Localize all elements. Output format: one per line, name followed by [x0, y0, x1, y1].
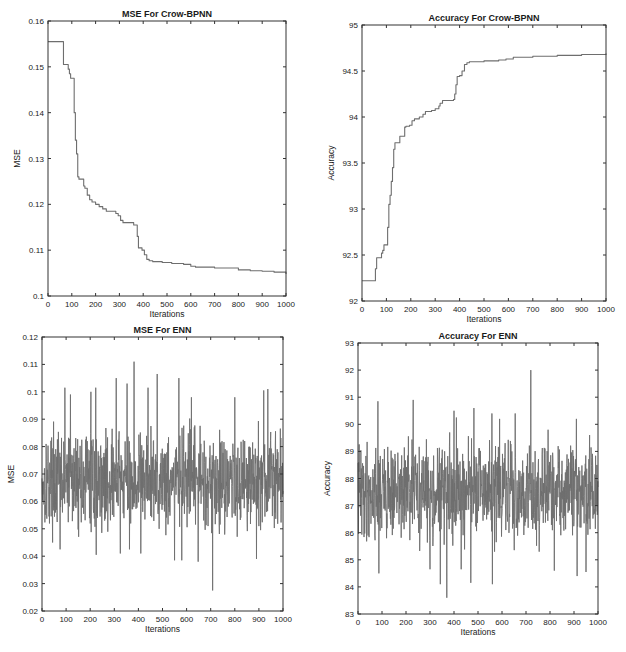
y-tick-label: 93	[345, 339, 354, 348]
x-tick-label: 100	[380, 305, 394, 314]
x-tick-label: 0	[40, 615, 45, 624]
y-tick-label: 0.11	[29, 246, 45, 255]
y-tick-label: 94.5	[342, 67, 358, 76]
figure-canvas: 010020030040050060070080090010000.10.110…	[0, 0, 626, 652]
y-tick-label: 94	[349, 113, 358, 122]
x-tick-label: 900	[256, 300, 270, 309]
y-tick-label: 0.15	[28, 63, 44, 72]
data-line	[42, 362, 283, 591]
y-tick-label: 0.05	[22, 525, 38, 534]
chart-title: MSE For ENN	[133, 325, 191, 335]
y-tick-label: 92.5	[342, 251, 358, 260]
x-tick-label: 0	[356, 618, 361, 627]
y-tick-label: 90	[345, 420, 354, 429]
y-tick-label: 88	[345, 475, 354, 484]
chart-mse-enn: 010020030040050060070080090010000.020.03…	[6, 325, 292, 634]
y-tick-label: 0.06	[22, 497, 38, 506]
y-axis-label: MSE	[12, 149, 22, 168]
figure: 010020030040050060070080090010000.10.110…	[0, 0, 626, 652]
x-tick-label: 700	[208, 300, 222, 309]
x-tick-label: 900	[567, 618, 581, 627]
y-axis-label: Accuracy	[322, 460, 332, 496]
x-tick-label: 200	[84, 615, 98, 624]
x-tick-label: 0	[46, 300, 51, 309]
axes-box	[48, 21, 286, 296]
chart-accuracy-crow-bpnn: 010020030040050060070080090010009292.593…	[326, 13, 615, 324]
x-axis-label: Iterations	[150, 309, 185, 319]
y-axis-label: Accuracy	[326, 145, 336, 181]
x-tick-label: 500	[477, 305, 491, 314]
x-tick-label: 200	[404, 305, 418, 314]
data-line	[48, 42, 286, 274]
x-tick-label: 1000	[277, 300, 295, 309]
x-tick-label: 700	[204, 615, 218, 624]
x-tick-label: 600	[184, 300, 198, 309]
y-tick-label: 83	[345, 610, 354, 619]
y-tick-label: 91	[345, 393, 354, 402]
y-tick-label: 0.09	[22, 415, 38, 424]
y-tick-label: 0.12	[22, 333, 38, 342]
y-tick-label: 93	[349, 205, 358, 214]
y-tick-label: 87	[345, 502, 354, 511]
x-tick-label: 1000	[597, 305, 615, 314]
x-tick-label: 100	[65, 300, 79, 309]
x-tick-label: 0	[360, 305, 365, 314]
x-tick-label: 500	[156, 615, 170, 624]
x-tick-label: 1000	[274, 615, 292, 624]
x-tick-label: 500	[160, 300, 174, 309]
x-axis-label: Iterations	[145, 624, 180, 634]
x-tick-label: 400	[137, 300, 151, 309]
x-tick-label: 400	[453, 305, 467, 314]
x-tick-label: 700	[519, 618, 533, 627]
x-tick-label: 700	[526, 305, 540, 314]
chart-accuracy-enn: 0100200300400500600700800900100083848586…	[322, 331, 607, 637]
x-tick-label: 800	[551, 305, 565, 314]
x-tick-label: 200	[89, 300, 103, 309]
axes-box	[362, 25, 606, 301]
y-tick-label: 0.1	[33, 292, 45, 301]
x-tick-label: 600	[180, 615, 194, 624]
x-tick-label: 400	[132, 615, 146, 624]
y-tick-label: 0.1	[27, 388, 39, 397]
y-tick-label: 95	[349, 21, 358, 30]
x-tick-label: 300	[108, 615, 122, 624]
y-tick-label: 89	[345, 447, 354, 456]
y-tick-label: 0.03	[22, 580, 38, 589]
y-tick-label: 93.5	[342, 159, 358, 168]
chart-title: Accuracy For ENN	[438, 331, 517, 341]
x-tick-label: 800	[228, 615, 242, 624]
y-tick-label: 0.07	[22, 470, 38, 479]
data-line	[362, 54, 606, 281]
y-tick-label: 0.02	[22, 607, 38, 616]
x-tick-label: 800	[232, 300, 246, 309]
y-tick-label: 0.14	[28, 109, 44, 118]
y-tick-label: 92	[349, 297, 358, 306]
x-tick-label: 400	[447, 618, 461, 627]
y-tick-label: 0.11	[23, 360, 39, 369]
y-tick-label: 0.13	[28, 155, 44, 164]
x-tick-label: 600	[502, 305, 516, 314]
x-tick-label: 800	[543, 618, 557, 627]
x-tick-label: 900	[575, 305, 589, 314]
x-axis-label: Iterations	[467, 314, 502, 324]
y-tick-label: 0.04	[22, 552, 38, 561]
x-axis-label: Iterations	[461, 627, 496, 637]
y-tick-label: 86	[345, 529, 354, 538]
data-line	[358, 370, 598, 598]
x-tick-label: 100	[59, 615, 73, 624]
x-tick-label: 300	[113, 300, 127, 309]
x-tick-label: 1000	[589, 618, 607, 627]
x-tick-label: 200	[399, 618, 413, 627]
x-tick-label: 300	[429, 305, 443, 314]
x-tick-label: 300	[423, 618, 437, 627]
x-tick-label: 900	[252, 615, 266, 624]
chart-title: Accuracy For Crow-BPNN	[428, 13, 539, 23]
x-tick-label: 600	[495, 618, 509, 627]
chart-mse-crow-bpnn: 010020030040050060070080090010000.10.110…	[12, 9, 295, 319]
x-tick-label: 100	[375, 618, 389, 627]
y-tick-label: 84	[345, 583, 354, 592]
y-tick-label: 85	[345, 556, 354, 565]
y-axis-label: MSE	[6, 464, 16, 483]
y-tick-label: 0.08	[22, 443, 38, 452]
y-tick-label: 0.12	[28, 200, 44, 209]
